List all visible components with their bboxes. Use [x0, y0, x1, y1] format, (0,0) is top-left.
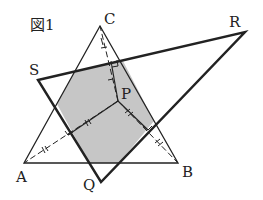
geometry-figure: 図1 C R S P A Q B	[0, 0, 263, 200]
label-a: A	[15, 168, 27, 186]
label-r: R	[229, 13, 241, 31]
label-p: P	[121, 85, 131, 103]
label-q: Q	[83, 176, 95, 194]
label-c: C	[104, 10, 115, 28]
figure-title: 図1	[30, 16, 55, 34]
label-s: S	[29, 61, 39, 79]
label-b: B	[182, 163, 193, 181]
